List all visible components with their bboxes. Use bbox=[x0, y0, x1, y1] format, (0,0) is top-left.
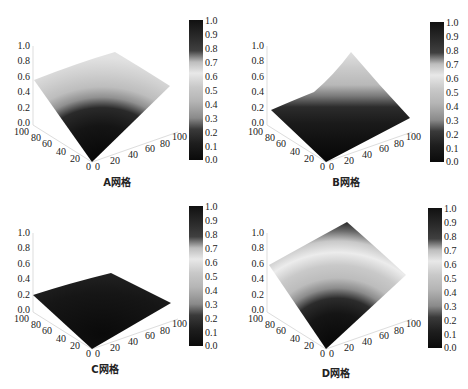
svg-text:0.3: 0.3 bbox=[446, 115, 459, 126]
svg-text:80: 80 bbox=[160, 138, 170, 149]
svg-text:20: 20 bbox=[304, 153, 314, 164]
svg-text:0: 0 bbox=[86, 348, 91, 359]
svg-text:0.0: 0.0 bbox=[205, 154, 218, 165]
svg-text:20: 20 bbox=[344, 342, 354, 353]
svg-text:0.4: 0.4 bbox=[205, 99, 218, 110]
svg-text:0.3: 0.3 bbox=[205, 299, 218, 310]
caption-d: D网格 bbox=[322, 367, 351, 379]
svg-text:0.9: 0.9 bbox=[205, 29, 218, 40]
svg-text:40: 40 bbox=[290, 333, 300, 344]
svg-text:1.0: 1.0 bbox=[446, 17, 459, 28]
colorbar-b bbox=[430, 22, 444, 162]
svg-text:0.7: 0.7 bbox=[205, 57, 218, 68]
svg-text:0.8: 0.8 bbox=[205, 229, 218, 240]
svg-text:80: 80 bbox=[31, 132, 41, 143]
colorbar-c bbox=[189, 206, 203, 346]
svg-text:0.5: 0.5 bbox=[444, 273, 457, 284]
svg-text:80: 80 bbox=[160, 325, 170, 336]
svg-text:0: 0 bbox=[320, 348, 325, 359]
svg-text:0.4: 0.4 bbox=[444, 287, 457, 298]
svg-text:0.6: 0.6 bbox=[205, 71, 218, 82]
svg-text:0.8: 0.8 bbox=[446, 45, 459, 56]
svg-text:100: 100 bbox=[172, 131, 187, 142]
svg-text:100: 100 bbox=[406, 131, 421, 142]
svg-text:0.1: 0.1 bbox=[205, 141, 218, 152]
svg-text:0.8: 0.8 bbox=[18, 55, 31, 66]
svg-text:0.1: 0.1 bbox=[444, 329, 457, 340]
svg-text:0.8: 0.8 bbox=[444, 231, 457, 242]
svg-text:0.1: 0.1 bbox=[205, 327, 218, 338]
svg-text:0.5: 0.5 bbox=[446, 87, 459, 98]
panel-a: 1.0 0.8 0.6 0.4 0.2 0.0 100 80 60 40 20 … bbox=[0, 0, 234, 194]
svg-text:0.9: 0.9 bbox=[205, 215, 218, 226]
caption-c: C网格 bbox=[91, 363, 119, 375]
svg-text:60: 60 bbox=[379, 143, 389, 154]
panel-b: 1.0 0.8 0.6 0.4 0.2 0.0 100 80 60 40 20 … bbox=[234, 0, 468, 194]
svg-text:60: 60 bbox=[145, 143, 155, 154]
colorbar-d bbox=[428, 208, 442, 348]
svg-text:0.3: 0.3 bbox=[205, 113, 218, 124]
svg-text:0.4: 0.4 bbox=[446, 101, 459, 112]
svg-text:0.6: 0.6 bbox=[205, 257, 218, 268]
svg-text:20: 20 bbox=[70, 153, 80, 164]
svg-text:1.0: 1.0 bbox=[205, 201, 218, 212]
svg-text:0.1: 0.1 bbox=[446, 143, 459, 154]
svg-text:40: 40 bbox=[128, 336, 138, 347]
svg-text:40: 40 bbox=[362, 336, 372, 347]
svg-text:0: 0 bbox=[329, 348, 334, 359]
svg-text:20: 20 bbox=[304, 340, 314, 351]
svg-text:100: 100 bbox=[14, 313, 29, 324]
caption-a: A网格 bbox=[103, 176, 132, 188]
svg-text:0.0: 0.0 bbox=[446, 156, 459, 167]
caption-b: B网格 bbox=[332, 176, 361, 188]
svg-text:60: 60 bbox=[276, 325, 286, 336]
svg-text:60: 60 bbox=[145, 330, 155, 341]
svg-text:100: 100 bbox=[248, 126, 263, 137]
svg-text:0: 0 bbox=[320, 161, 325, 172]
svg-text:0: 0 bbox=[95, 348, 100, 359]
svg-text:0.7: 0.7 bbox=[444, 245, 457, 256]
surface-plot-d: 1.0 0.8 0.6 0.4 0.2 0.0 100 80 60 40 20 … bbox=[234, 195, 468, 389]
svg-text:0.5: 0.5 bbox=[205, 271, 218, 282]
svg-text:0.6: 0.6 bbox=[252, 258, 265, 269]
svg-text:1.0: 1.0 bbox=[252, 40, 265, 51]
svg-text:60: 60 bbox=[42, 325, 52, 336]
svg-text:100: 100 bbox=[406, 318, 421, 329]
svg-text:0.7: 0.7 bbox=[446, 59, 459, 70]
surface-plot-a: 1.0 0.8 0.6 0.4 0.2 0.0 100 80 60 40 20 … bbox=[0, 0, 234, 195]
svg-text:80: 80 bbox=[265, 132, 275, 143]
svg-text:0.2: 0.2 bbox=[252, 102, 265, 113]
svg-text:100: 100 bbox=[172, 318, 187, 329]
svg-text:0.9: 0.9 bbox=[446, 31, 459, 42]
svg-text:40: 40 bbox=[362, 149, 372, 160]
svg-text:20: 20 bbox=[110, 155, 120, 166]
svg-text:60: 60 bbox=[379, 330, 389, 341]
svg-text:0.2: 0.2 bbox=[444, 315, 457, 326]
svg-text:0.0: 0.0 bbox=[444, 342, 457, 353]
svg-text:0.6: 0.6 bbox=[18, 71, 31, 82]
svg-text:0.4: 0.4 bbox=[18, 273, 31, 284]
svg-text:60: 60 bbox=[42, 138, 52, 149]
svg-text:80: 80 bbox=[394, 325, 404, 336]
svg-text:0.2: 0.2 bbox=[205, 127, 218, 138]
svg-text:1.0: 1.0 bbox=[205, 15, 218, 26]
svg-text:0.0: 0.0 bbox=[205, 340, 218, 351]
svg-text:0.4: 0.4 bbox=[205, 285, 218, 296]
panel-c: 1.0 0.8 0.6 0.4 0.2 0.0 100 80 60 40 20 … bbox=[0, 195, 234, 389]
svg-text:40: 40 bbox=[56, 146, 66, 157]
svg-text:60: 60 bbox=[276, 138, 286, 149]
svg-text:40: 40 bbox=[290, 146, 300, 157]
svg-text:80: 80 bbox=[394, 138, 404, 149]
svg-text:0: 0 bbox=[86, 161, 91, 172]
panel-d: 1.0 0.8 0.6 0.4 0.2 0.0 100 80 60 40 20 … bbox=[234, 195, 468, 389]
svg-text:40: 40 bbox=[128, 149, 138, 160]
svg-text:100: 100 bbox=[248, 313, 263, 324]
svg-text:0.8: 0.8 bbox=[252, 242, 265, 253]
svg-text:0.8: 0.8 bbox=[252, 55, 265, 66]
svg-text:1.0: 1.0 bbox=[18, 227, 31, 238]
svg-text:0.2: 0.2 bbox=[205, 313, 218, 324]
svg-text:0.4: 0.4 bbox=[252, 86, 265, 97]
svg-text:80: 80 bbox=[31, 319, 41, 330]
svg-text:0.6: 0.6 bbox=[252, 71, 265, 82]
svg-text:0.7: 0.7 bbox=[205, 243, 218, 254]
